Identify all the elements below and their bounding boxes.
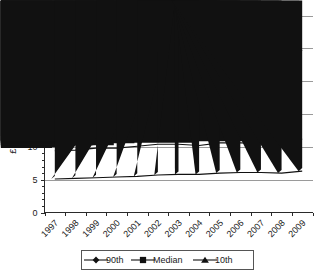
chart-container: 051015202530 199719981999200020012002200…	[0, 0, 333, 280]
x-tick-label: 1998	[60, 218, 81, 239]
x-tick-label: 2001	[121, 218, 142, 239]
x-tick-label: 2006	[225, 218, 246, 239]
line-chart: 051015202530 199719981999200020012002200…	[0, 0, 333, 280]
x-tick-label: 1999	[80, 218, 101, 239]
legend-marker-square	[140, 257, 146, 263]
x-tick-label: 1997	[39, 218, 60, 239]
legend-label: 90th	[106, 255, 124, 265]
y-tick-label: 0	[32, 208, 37, 218]
legend-label: 10th	[215, 255, 233, 265]
chart-legend: 90thMedian10th	[82, 251, 254, 270]
x-tick-label: 2005	[204, 218, 225, 239]
chart-series	[1, 0, 302, 179]
legend-label: Median	[153, 255, 183, 265]
x-tick-label: 2009	[286, 218, 307, 239]
y-tick-label: 5	[32, 175, 37, 185]
x-axis-tick-labels: 1997199819992000200120022003200420052006…	[39, 218, 308, 239]
series-10th	[51, 0, 302, 179]
x-tick-label: 2003	[163, 218, 184, 239]
x-tick-label: 2008	[266, 218, 287, 239]
x-tick-label: 2004	[183, 218, 204, 239]
x-tick-label: 2000	[101, 218, 122, 239]
series-line	[55, 171, 302, 179]
x-axis-ticks	[46, 213, 314, 217]
x-tick-label: 2007	[245, 218, 266, 239]
x-tick-label: 2002	[142, 218, 163, 239]
